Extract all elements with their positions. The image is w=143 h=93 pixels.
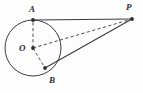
segment-BP [45, 19, 132, 68]
point-label-O: O [19, 44, 26, 53]
tangent-circle-diagram: A O B P [0, 0, 143, 93]
segment-AP [33, 19, 132, 20]
point-label-A: A [29, 5, 35, 14]
segment-OP [33, 19, 132, 48]
point-marker-O [31, 46, 35, 50]
point-marker-P [130, 17, 134, 21]
point-marker-B [43, 66, 47, 70]
point-marker-A [31, 18, 35, 22]
point-label-P: P [126, 3, 132, 12]
point-label-B: B [49, 76, 55, 85]
segment-OB [33, 48, 45, 68]
